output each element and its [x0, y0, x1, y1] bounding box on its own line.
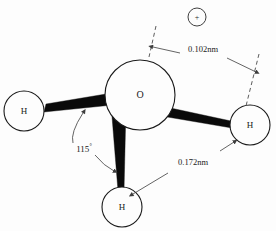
bond-angle-label: 115° [76, 143, 92, 154]
dimension-arrow-bond-length-left [153, 47, 180, 53]
reference-line-left [149, 26, 156, 57]
bond-angle-unit: ° [89, 143, 92, 149]
angle-arc-upper [72, 113, 83, 143]
water-molecule-diagram: O H H H 0.102nm 0.172nm 115° [0, 0, 276, 231]
reference-line-right [246, 54, 259, 106]
dimension-arrow-hh-upper [220, 142, 234, 151]
bond-angle-value: 115 [76, 144, 90, 154]
dimension-arrow-hh-lower [133, 173, 168, 194]
bond-length-label: 0.102nm [188, 44, 218, 54]
dimension-arrow-bond-length-right [227, 58, 256, 72]
atom-hydrogen-bottom-label: H [119, 202, 126, 212]
charge-marker-glyph: + [195, 13, 200, 22]
atom-oxygen-label: O [136, 89, 143, 100]
molecule-canvas: O H H H 0.102nm 0.172nm 115° [0, 0, 276, 231]
angle-arc-lower [95, 155, 114, 171]
hh-distance-label: 0.172nm [178, 157, 208, 167]
atom-hydrogen-left-label: H [21, 106, 28, 116]
atom-hydrogen-right-label: H [247, 120, 254, 130]
